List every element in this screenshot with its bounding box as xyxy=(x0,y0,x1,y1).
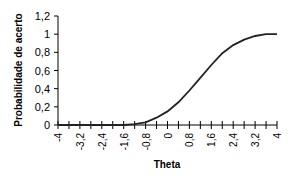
y-tick-label: 1 xyxy=(44,28,50,40)
x-tick-label: -4 xyxy=(53,133,64,142)
x-tick-label: 2,4 xyxy=(228,133,239,147)
y-axis-label: Probabilidade de acerto xyxy=(13,13,24,126)
y-axis: 00,20,40,60,811,2 xyxy=(35,10,58,131)
y-tick-label: 1,2 xyxy=(35,10,50,22)
y-tick-label: 0,4 xyxy=(35,83,50,95)
icc-chart: 00,20,40,60,811,2 -4-3,2-2,4-1,6-0,800,8… xyxy=(0,0,297,177)
x-tick-label: 0 xyxy=(163,133,174,139)
x-tick-label: -2,4 xyxy=(97,133,108,151)
y-tick-label: 0,6 xyxy=(35,65,50,77)
series-line xyxy=(58,34,277,125)
x-tick-label: 3,2 xyxy=(250,133,261,147)
y-tick-label: 0 xyxy=(44,119,50,131)
x-tick-label: 0,8 xyxy=(184,133,195,147)
x-tick-label: 1,6 xyxy=(206,133,217,147)
y-tick-label: 0,2 xyxy=(35,101,50,113)
x-tick-label: -3,2 xyxy=(75,133,86,151)
x-tick-label: 4 xyxy=(272,133,283,139)
x-tick-label: -0,8 xyxy=(141,133,152,151)
x-axis-label: Theta xyxy=(154,159,181,170)
x-tick-label: -1,6 xyxy=(119,133,130,151)
y-tick-label: 0,8 xyxy=(35,46,50,58)
